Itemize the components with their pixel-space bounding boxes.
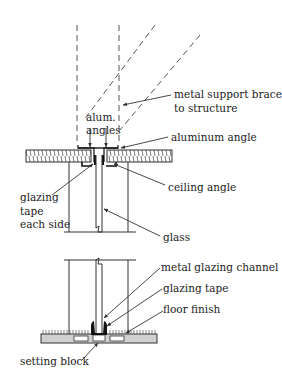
label-metal-support-2: to structure [174, 102, 237, 114]
label-ceiling-angle: ceiling angle [168, 181, 236, 193]
label-metal-glazing-channel: metal glazing channel [161, 261, 279, 273]
label-setting-block: setting block [20, 355, 90, 367]
glazing-detail-diagram: metal support braced to structure alum. … [0, 0, 282, 385]
label-glazing-tape-1: glazing [20, 191, 59, 203]
label-glazing-tape-3: each side [20, 218, 70, 230]
label-metal-support-1: metal support braced [174, 88, 282, 100]
label-alum-angles-1: alum. [86, 111, 116, 123]
label-glass: glass [163, 231, 190, 243]
label-alum-angles-2: angles [86, 124, 121, 136]
floor-finish [41, 330, 157, 343]
lower-partition [64, 258, 136, 334]
label-glazing-tape-2: tape [20, 205, 43, 217]
label-floor-finish: floor finish [163, 303, 221, 315]
metal-glazing-channel [91, 321, 107, 335]
ceiling-slab [26, 150, 172, 162]
label-glazing-tape: glazing tape [163, 282, 228, 294]
label-aluminum-angle: aluminum angle [171, 131, 257, 143]
ceiling-angles [82, 162, 116, 166]
upper-partition [64, 155, 136, 232]
